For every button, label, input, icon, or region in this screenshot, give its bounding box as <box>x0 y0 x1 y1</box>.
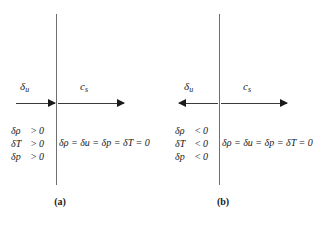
condition-rhs: 0 <box>203 125 208 136</box>
arrow-head-right-icon <box>117 99 125 107</box>
condition-operator: > <box>28 137 39 150</box>
conditions-list-b: δρ<0 δT<0 δp<0 <box>175 124 208 163</box>
delta-u-arrow-b <box>179 99 218 108</box>
delta-u-label-b: δu <box>184 80 194 94</box>
condition-row: δρ>0 <box>11 124 44 137</box>
condition-operator: > <box>28 150 39 163</box>
condition-rhs: 0 <box>203 151 208 162</box>
condition-operator: < <box>192 124 203 137</box>
condition-row: δT>0 <box>11 137 44 150</box>
sound-speed-label-a: cs <box>80 80 88 94</box>
panel-caption-b: (b) <box>208 196 238 207</box>
delta-u-subscript-b: u <box>189 85 193 94</box>
wave-front-line-a <box>56 14 57 185</box>
sound-speed-arrow-a <box>58 99 124 108</box>
condition-row: δp<0 <box>175 150 208 163</box>
arrow-shaft <box>221 103 287 104</box>
condition-lhs: δp <box>11 150 28 163</box>
delta-u-subscript-a: u <box>25 85 29 94</box>
figure-canvas: δu cs δρ>0 δT>0 δp>0 δρ = δu = δp = δT =… <box>0 0 333 230</box>
condition-lhs: δp <box>175 150 192 163</box>
condition-rhs: 0 <box>203 138 208 149</box>
arrow-head-right-icon <box>48 99 56 107</box>
conditions-list-a: δρ>0 δT>0 δp>0 <box>11 124 44 163</box>
condition-lhs: δρ <box>175 124 192 137</box>
condition-lhs: δρ <box>11 124 28 137</box>
condition-row: δρ<0 <box>175 124 208 137</box>
cs-subscript-a: s <box>85 85 88 94</box>
panel-b: δu cs δρ<0 δT<0 δp<0 δρ = δu = δp = δT =… <box>167 0 333 230</box>
arrow-head-left-icon <box>178 99 186 107</box>
condition-row: δp>0 <box>11 150 44 163</box>
condition-lhs: δT <box>175 137 192 150</box>
condition-operator: < <box>192 150 203 163</box>
condition-row: δT<0 <box>175 137 208 150</box>
delta-u-arrow-a <box>16 99 55 108</box>
condition-lhs: δT <box>11 137 28 150</box>
arrow-head-right-icon <box>280 99 288 107</box>
zero-perturbation-equation-b: δρ = δu = δp = δT = 0 <box>222 137 313 148</box>
panel-caption-a: (a) <box>45 196 75 207</box>
cs-subscript-b: s <box>248 85 251 94</box>
sound-speed-arrow-b <box>221 99 287 108</box>
wave-front-line-b <box>219 14 220 185</box>
panel-a: δu cs δρ>0 δT>0 δp>0 δρ = δu = δp = δT =… <box>0 0 166 230</box>
delta-u-label-a: δu <box>20 80 30 94</box>
zero-perturbation-equation-a: δρ = δu = δp = δT = 0 <box>59 137 150 148</box>
condition-operator: > <box>28 124 39 137</box>
condition-rhs: 0 <box>39 125 44 136</box>
sound-speed-label-b: cs <box>243 80 251 94</box>
arrow-shaft <box>58 103 124 104</box>
condition-rhs: 0 <box>39 151 44 162</box>
condition-operator: < <box>192 137 203 150</box>
condition-rhs: 0 <box>39 138 44 149</box>
